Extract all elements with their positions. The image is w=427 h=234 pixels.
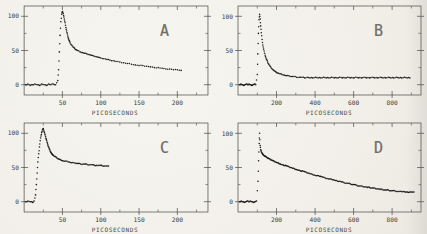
panel-b-xaxis-title: PICOSECONDS (306, 109, 352, 116)
svg-text:400: 400 (310, 216, 321, 223)
panel-c-xaxis-title: PICOSECONDS (92, 226, 138, 233)
panel-a-letter: A (160, 24, 169, 39)
panel-c-plot: 50100150200050100 (0, 117, 214, 234)
svg-text:50: 50 (226, 47, 234, 54)
svg-text:100: 100 (95, 216, 106, 223)
svg-text:200: 200 (271, 216, 282, 223)
svg-text:150: 150 (133, 216, 144, 223)
svg-text:100: 100 (222, 130, 233, 137)
svg-text:200: 200 (172, 99, 183, 106)
svg-text:50: 50 (59, 216, 67, 223)
panel-b-letter: B (374, 24, 383, 39)
panel-d-letter: D (374, 141, 383, 156)
svg-text:800: 800 (387, 99, 398, 106)
svg-text:0: 0 (229, 81, 233, 88)
svg-text:100: 100 (8, 130, 19, 137)
svg-text:50: 50 (226, 164, 234, 171)
svg-text:50: 50 (12, 47, 20, 54)
svg-text:400: 400 (310, 99, 321, 106)
panel-c-letter: C (160, 141, 169, 156)
svg-text:0: 0 (15, 81, 19, 88)
svg-text:600: 600 (348, 99, 359, 106)
svg-text:50: 50 (59, 99, 67, 106)
svg-text:200: 200 (172, 216, 183, 223)
panel-d-xaxis-title: PICOSECONDS (306, 226, 352, 233)
svg-text:100: 100 (95, 99, 106, 106)
svg-text:50: 50 (12, 164, 20, 171)
svg-text:200: 200 (271, 99, 282, 106)
panel-d: 200400600800050100 D PICOSECONDS (214, 117, 427, 234)
svg-text:0: 0 (229, 198, 233, 205)
panel-b: 200400600800050100 B PICOSECONDS (214, 0, 427, 117)
svg-text:150: 150 (133, 99, 144, 106)
svg-text:600: 600 (348, 216, 359, 223)
panel-a-plot: 50100150200050100 (0, 0, 214, 117)
svg-text:100: 100 (222, 13, 233, 20)
panel-d-plot: 200400600800050100 (214, 117, 427, 234)
svg-text:800: 800 (387, 216, 398, 223)
panel-b-plot: 200400600800050100 (214, 0, 427, 117)
svg-text:100: 100 (8, 13, 19, 20)
panel-c: 50100150200050100 C PICOSECONDS (0, 117, 214, 234)
svg-text:0: 0 (15, 198, 19, 205)
panel-a: 50100150200050100 A PICOSECONDS (0, 0, 214, 117)
four-panel-decay-figure: 50100150200050100 A PICOSECONDS 20040060… (0, 0, 427, 234)
panel-a-xaxis-title: PICOSECONDS (92, 109, 138, 116)
